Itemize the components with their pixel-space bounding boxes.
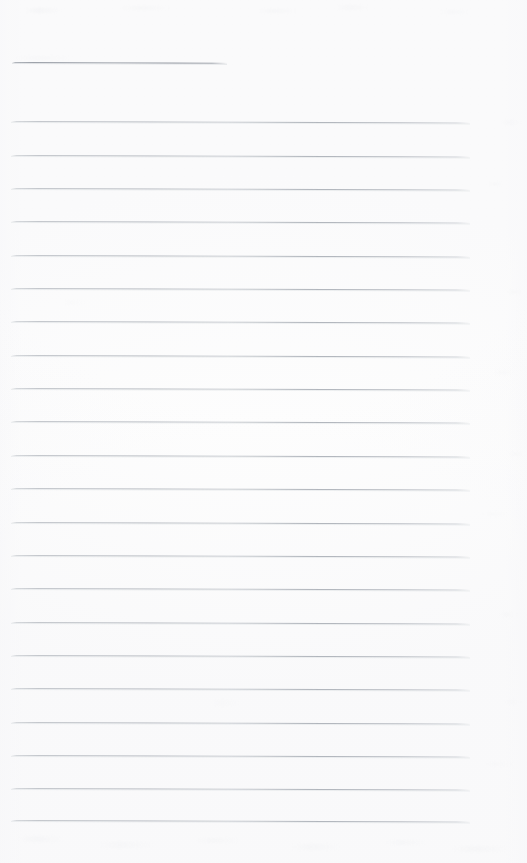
ruled-line [11,221,470,223]
ruled-line [11,155,470,157]
ruled-line [11,622,470,624]
ruled-line [11,688,470,690]
header-rule [12,62,227,64]
ruled-line [11,722,470,724]
ruled-line [11,555,470,557]
ruled-line [11,388,470,390]
ruled-line [11,820,470,822]
ruled-line [11,755,470,757]
scanned-page [0,0,527,863]
ruled-line [11,288,470,290]
ruled-line [11,121,470,123]
ruled-line [11,488,470,490]
ruled-line [11,321,470,323]
ruled-line [11,455,470,457]
ruled-line [11,788,470,790]
ruled-line [11,355,470,357]
ruled-lines-layer [0,0,527,863]
ruled-line [11,655,470,657]
ruled-line [11,255,470,257]
ruled-line [11,421,470,423]
ruled-line [11,522,470,524]
ruled-line [11,588,470,590]
ruled-line [11,188,470,190]
